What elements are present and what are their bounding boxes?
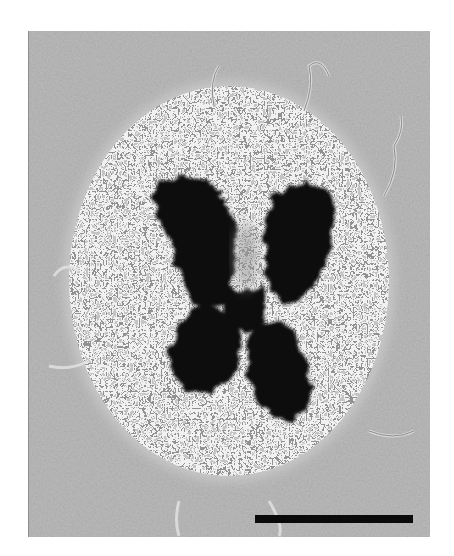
chromatid-groove [234,221,258,291]
scale-bar [255,515,413,523]
micrograph-svg [29,31,430,537]
micrograph-field [28,31,430,537]
